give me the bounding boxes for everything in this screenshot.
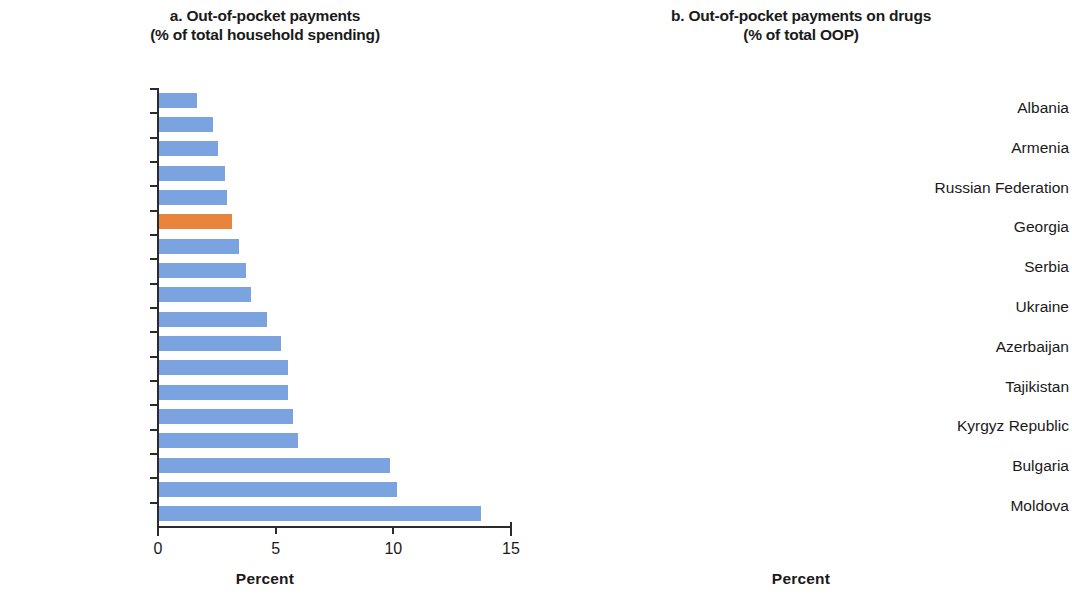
y-tick [150,137,157,139]
bar-hungary [159,239,239,254]
y-tick [150,502,157,504]
category-label-tajikistan: Tajikistan [1005,379,1069,395]
category-label-armenia: Armenia [1011,140,1069,156]
chart-panel-b: b. Out-of-pocket payments on drugs (% of… [530,0,1072,598]
bar-row [159,385,512,400]
y-tick [150,404,157,406]
category-label-azerbaijan: Azerbaijan [996,339,1069,355]
panel-a-x-axis-title: Percent [0,570,530,588]
y-tick [150,88,157,90]
bar-poland [159,166,225,181]
y-tick [150,161,157,163]
bar-row [159,312,512,327]
bar-row [159,458,512,473]
bar-azerbaijan [159,482,397,497]
y-tick [150,112,157,114]
bar-row [159,190,512,205]
panel-b-x-axis-title: Percent [530,570,1072,588]
y-tick [150,477,157,479]
panel-a-title-line1: a. Out-of-pocket payments [170,7,361,24]
bar-row [159,409,512,424]
y-tick [150,380,157,382]
bar-row [159,287,512,302]
bar-albania [159,336,281,351]
x-tick [275,526,277,534]
panel-a-title: a. Out-of-pocket payments (% of total ho… [0,6,530,44]
chart-panel-a: a. Out-of-pocket payments (% of total ho… [0,0,530,598]
figure-container: a. Out-of-pocket payments (% of total ho… [0,0,1072,598]
bar-row [159,214,512,229]
x-tick [157,522,159,536]
x-tick [392,526,394,534]
bar-armenia [159,409,293,424]
y-tick [150,331,157,333]
y-tick [150,356,157,358]
x-tick-label: 5 [271,540,280,558]
bar-tajikistan [159,385,288,400]
category-label-russian-federation: Russian Federation [935,180,1069,196]
category-label-moldova: Moldova [1010,498,1069,514]
x-tick-label: 15 [502,540,520,558]
bar-row [159,239,512,254]
x-tick-label: 0 [154,540,163,558]
bar-bulgaria [159,433,298,448]
category-label-georgia: Georgia [1014,219,1069,235]
bar-row [159,141,512,156]
bar-row [159,166,512,181]
panel-b-title-line1: b. Out-of-pocket payments on drugs [671,7,931,24]
bar-row [159,506,512,521]
category-label-albania: Albania [1017,100,1069,116]
y-tick [150,283,157,285]
bar-moldova [159,360,288,375]
panel-a-subtitle: (% of total household spending) [0,25,530,44]
y-tick [150,453,157,455]
bar-row [159,433,512,448]
y-tick [150,185,157,187]
bar-russian-federation [159,312,267,327]
bar-row [159,336,512,351]
bar-serbia [159,263,246,278]
bar-row [159,482,512,497]
bar-row [159,263,512,278]
panel-a-bar-group [159,88,512,526]
bar-slovenia [159,117,213,132]
bar-estonia [159,190,227,205]
panel-b-subtitle: (% of total OOP) [530,25,1072,44]
y-tick [150,234,157,236]
y-tick [150,429,157,431]
x-tick-label: 10 [384,540,402,558]
category-label-ukraine: Ukraine [1016,299,1069,315]
panel-b-title: b. Out-of-pocket payments on drugs (% of… [530,6,1072,44]
y-tick [150,307,157,309]
y-tick [150,210,157,212]
category-label-kyrgyz-republic: Kyrgyz Republic [957,418,1069,434]
panel-a-plot-area [157,88,512,528]
category-label-bulgaria: Bulgaria [1012,458,1069,474]
bar-ukraine [159,458,390,473]
bar-slovak-republic [159,287,251,302]
category-label-serbia: Serbia [1024,259,1069,275]
x-tick [510,522,512,536]
y-tick [150,258,157,260]
bar-row [159,360,512,375]
bar-eu-15 [159,214,232,229]
bar-turkey [159,93,197,108]
panel-a-x-axis [157,526,512,528]
bar-georgia [159,506,481,521]
bar-czech-republic [159,141,218,156]
bar-row [159,93,512,108]
bar-row [159,117,512,132]
